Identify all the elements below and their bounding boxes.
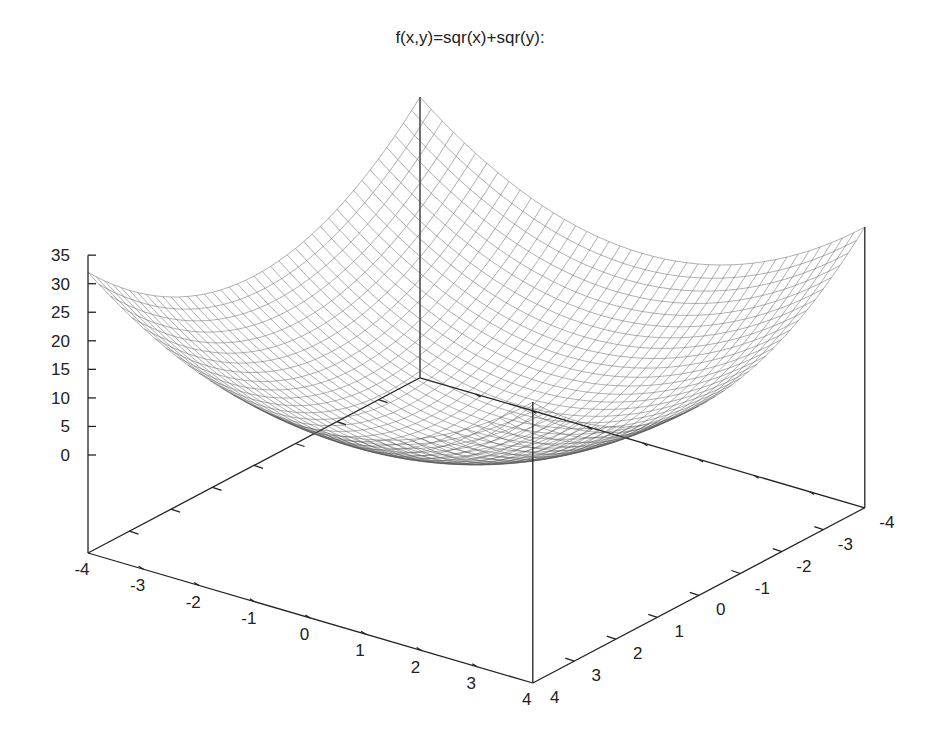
tick-label: 5 bbox=[61, 417, 70, 436]
tick-label: 35 bbox=[51, 246, 70, 265]
tick-label: -2 bbox=[186, 593, 201, 612]
tick-label: 15 bbox=[51, 360, 70, 379]
surface-plot: 05101520253035-4-3-2-101234-4-3-2-101234 bbox=[0, 0, 940, 733]
axis-tick-labels: 05101520253035-4-3-2-101234-4-3-2-101234 bbox=[51, 246, 894, 709]
axis-box-back bbox=[88, 97, 865, 553]
tick-label: 25 bbox=[51, 303, 70, 322]
tick-label: -3 bbox=[838, 535, 853, 554]
tick-label: 3 bbox=[592, 666, 601, 685]
tick-label: -2 bbox=[796, 557, 811, 576]
tick-label: 4 bbox=[522, 690, 531, 709]
tick-label: 1 bbox=[675, 622, 684, 641]
tick-label: 4 bbox=[550, 688, 559, 707]
tick-label: -3 bbox=[130, 576, 145, 595]
axis-box-front bbox=[88, 227, 865, 683]
tick-label: 2 bbox=[411, 658, 420, 677]
tick-label: 0 bbox=[716, 600, 725, 619]
tick-label: 10 bbox=[51, 389, 70, 408]
tick-label: -1 bbox=[241, 609, 256, 628]
tick-label: 1 bbox=[355, 641, 364, 660]
tick-label: 3 bbox=[466, 674, 475, 693]
tick-label: 20 bbox=[51, 332, 70, 351]
tick-label: -4 bbox=[74, 560, 89, 579]
tick-label: 2 bbox=[633, 644, 642, 663]
tick-label: -1 bbox=[755, 579, 770, 598]
tick-label: 0 bbox=[61, 446, 70, 465]
tick-label: 30 bbox=[51, 275, 70, 294]
tick-label: -4 bbox=[879, 513, 894, 532]
tick-label: 0 bbox=[300, 625, 309, 644]
surface-wireframe bbox=[88, 97, 865, 465]
